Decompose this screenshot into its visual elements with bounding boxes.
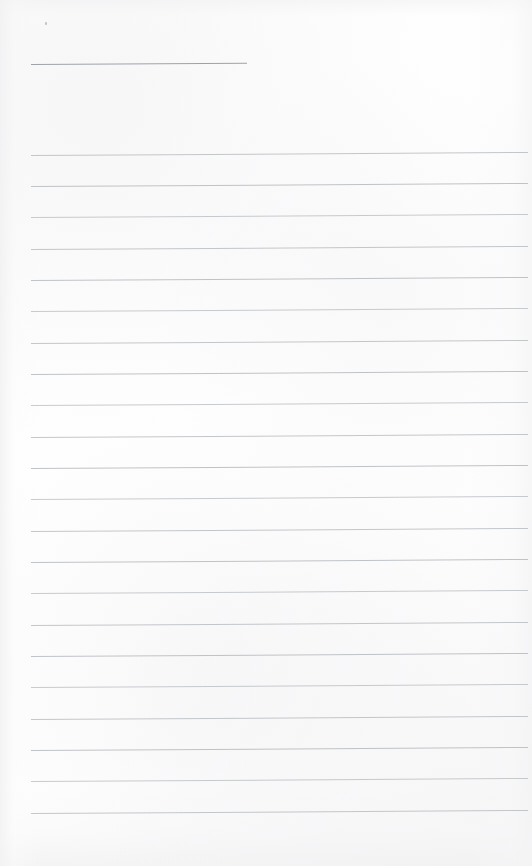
ruled-line [31, 528, 528, 532]
ruled-line [31, 590, 528, 594]
ruled-line [31, 308, 528, 312]
ruled-line [31, 340, 528, 344]
ruled-line [31, 371, 528, 375]
ruled-line [31, 559, 528, 563]
ruled-line [31, 434, 528, 438]
ruled-lines-layer [0, 0, 532, 866]
ruled-line [31, 496, 528, 500]
ruled-line [31, 246, 528, 250]
ruled-line [31, 152, 528, 156]
notebook-page [0, 0, 532, 866]
ruled-line [31, 214, 528, 218]
ruled-line [31, 183, 528, 187]
ruled-line [31, 277, 528, 281]
ruled-line [31, 465, 528, 469]
ruled-line [31, 716, 528, 720]
title-underline-rule [31, 63, 247, 65]
ruled-line [31, 622, 528, 626]
ruled-line [31, 402, 528, 406]
ruled-line [31, 747, 528, 751]
ruled-line [31, 810, 528, 814]
ruled-line [31, 653, 528, 657]
ruled-line [31, 778, 528, 782]
ruled-line [31, 684, 528, 688]
scan-speck-icon [45, 22, 47, 25]
